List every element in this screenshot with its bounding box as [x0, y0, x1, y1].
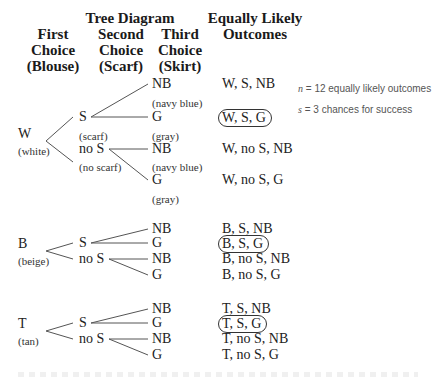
header-line: Choice — [148, 42, 212, 58]
outcome: W, S, NB — [222, 76, 275, 92]
first-choice-desc: (beige) — [18, 255, 49, 267]
outcome: T, no S, G — [222, 347, 279, 363]
second-choice-node: no S — [79, 141, 104, 157]
header-line: Third — [148, 26, 212, 42]
second-choice-header: Second Choice (Scarf) — [86, 26, 156, 74]
header-line: Outcomes — [205, 26, 305, 42]
third-choice-node: NB — [152, 141, 171, 157]
header-line: Second — [86, 26, 156, 42]
third-choice-desc: (navy blue) — [152, 97, 202, 109]
third-choice-node: NB — [152, 76, 171, 92]
tree-diagram-title: Tree Diagram — [70, 10, 190, 26]
outcome: W, no S, G — [222, 172, 283, 188]
header-line: (Skirt) — [148, 58, 212, 74]
second-choice-desc: (no scarf) — [79, 161, 121, 173]
first-choice-header: First Choice (Blouse) — [18, 26, 88, 74]
second-choice-node: S — [79, 235, 87, 251]
second-choice-node: no S — [79, 331, 104, 347]
header-line: First — [18, 26, 88, 42]
s-note-text: = 3 chances for success — [302, 104, 412, 115]
outcome: B, no S, G — [222, 267, 281, 283]
s-note: s = 3 chances for success — [298, 104, 412, 115]
cropped-text-line — [18, 372, 418, 377]
first-choice-node: T — [18, 316, 27, 332]
outcome: T, no S, NB — [222, 331, 288, 347]
third-choice-node: G — [152, 267, 162, 283]
third-choice-desc: (gray) — [152, 193, 179, 205]
n-note-text: = 12 equally likely outcomes — [303, 83, 431, 94]
n-note: n = 12 equally likely outcomes — [298, 83, 431, 94]
header-line: (Scarf) — [86, 58, 156, 74]
third-choice-header: Third Choice (Skirt) — [148, 26, 212, 74]
third-choice-node: G — [152, 109, 162, 125]
first-choice-node: W — [18, 126, 31, 142]
outcome: B, no S, NB — [222, 251, 290, 267]
second-choice-node: S — [79, 109, 87, 125]
first-choice-node: B — [18, 236, 27, 252]
third-choice-node: G — [152, 315, 162, 331]
outcome-success-circled: W, S, G — [218, 109, 272, 127]
header-line: Choice — [18, 42, 88, 58]
third-choice-node: G — [152, 235, 162, 251]
third-choice-node: G — [152, 172, 162, 188]
second-choice-node: no S — [79, 251, 104, 267]
first-choice-desc: (white) — [18, 145, 50, 157]
header-line: Equally Likely — [205, 10, 305, 26]
header-line: Choice — [86, 42, 156, 58]
first-choice-desc: (tan) — [18, 335, 39, 347]
third-choice-node: NB — [152, 251, 171, 267]
outcomes-header: Equally Likely Outcomes — [205, 10, 305, 42]
outcome: W, no S, NB — [222, 141, 293, 157]
second-choice-node: S — [79, 315, 87, 331]
header-line: (Blouse) — [18, 58, 88, 74]
third-choice-node: G — [152, 347, 162, 363]
third-choice-node: NB — [152, 331, 171, 347]
